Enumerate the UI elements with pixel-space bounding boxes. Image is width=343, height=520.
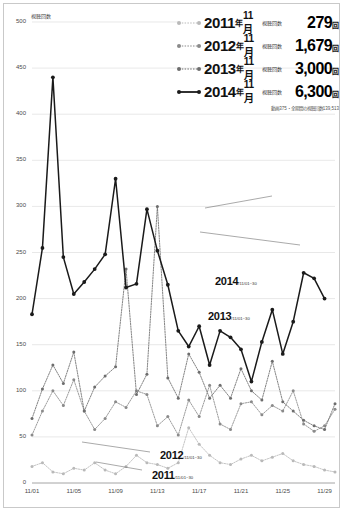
legend-line-sample-icon (176, 17, 202, 29)
series-2014 (30, 75, 326, 383)
x-axis-tick: 11/29 (308, 488, 342, 494)
chart-legend: 2011年11月視聴回数279回2012年11月視聴回数1,679回2013年1… (176, 11, 339, 103)
y-axis-title: 視聴回数 (31, 12, 51, 19)
annotation-range: /11/01~30 (175, 475, 193, 480)
annotation-year: 2011 (152, 469, 175, 481)
annotation-range: /11/01~30 (238, 281, 256, 286)
series-2013 (31, 205, 337, 431)
annotation-leader-lines (82, 196, 300, 470)
legend-unit: 回 (332, 43, 339, 53)
legend-row-2014: 2014年11月視聴回数6,300回 (176, 80, 339, 103)
legend-year: 2011 (204, 15, 235, 30)
annotation-range: /11/01~30 (231, 316, 249, 321)
x-axis-tick: 11/13 (140, 488, 174, 494)
y-axis-tick: 0 (4, 479, 26, 485)
x-axis-tick: 11/05 (57, 488, 91, 494)
legend-year-suffix: 年 (236, 86, 244, 97)
series-annotation-2011: 2011/11/01~30 (152, 466, 193, 482)
legend-value-wrap: 3,000回 (283, 61, 339, 77)
series-annotation-2013: 2013/11/01~30 (208, 307, 250, 323)
series-2012 (31, 378, 337, 436)
y-axis-tick: 100 (4, 387, 26, 393)
legend-unit: 回 (332, 89, 339, 99)
legend-month: 11月 (244, 79, 262, 105)
legend-footnote: 動画375・全期間の視聴回数139,513 (176, 105, 339, 111)
legend-line-sample-icon (176, 86, 202, 98)
legend-unit: 回 (332, 20, 339, 30)
annotation-year: 2013 (208, 310, 231, 322)
legend-year-suffix: 年 (236, 63, 244, 74)
x-axis-tick: 11/09 (99, 488, 133, 494)
legend-row-2013: 2013年11月視聴回数3,000回 (176, 57, 339, 80)
chart-page: 視聴回数 050100150200250300350400450500 11/0… (0, 0, 343, 520)
legend-unit: 回 (332, 66, 339, 76)
x-axis-tick: 11/17 (182, 488, 216, 494)
legend-year: 2014 (204, 84, 236, 99)
legend-row-2012: 2012年11月視聴回数1,679回 (176, 34, 339, 57)
x-axis-tick: 11/25 (266, 488, 300, 494)
y-axis-tick: 350 (4, 156, 26, 162)
y-axis-tick: 300 (4, 202, 26, 208)
legend-metric-label: 視聴回数 (262, 42, 283, 49)
legend-year-suffix: 年 (235, 17, 243, 28)
legend-year: 2012 (204, 38, 236, 53)
legend-year: 2013 (204, 61, 236, 76)
y-axis-tick: 150 (4, 341, 26, 347)
y-axis-tick: 250 (4, 249, 26, 255)
legend-metric-label: 視聴回数 (262, 19, 283, 26)
annotation-range: /11/01~30 (183, 455, 201, 460)
y-axis-tick: 450 (4, 64, 26, 70)
y-axis-tick: 500 (4, 18, 26, 24)
legend-value: 1,679 (295, 38, 332, 54)
x-axis-tick: 11/01 (15, 488, 49, 494)
legend-value-wrap: 1,679回 (283, 38, 339, 54)
annotation-year: 2012 (160, 449, 183, 461)
y-axis-tick: 200 (4, 295, 26, 301)
legend-metric-label: 視聴回数 (262, 65, 283, 72)
y-axis-tick: 400 (4, 110, 26, 116)
series-annotation-2014: 2014/11/01~30 (215, 272, 257, 288)
legend-year-suffix: 年 (236, 40, 244, 51)
series-annotation-2012: 2012/11/01~30 (160, 446, 202, 462)
annotation-year: 2014 (215, 275, 238, 287)
legend-value-wrap: 6,300回 (283, 84, 339, 100)
legend-metric-label: 視聴回数 (262, 88, 283, 95)
legend-value: 279 (307, 15, 332, 31)
legend-value: 6,300 (295, 84, 332, 100)
legend-row-2011: 2011年11月視聴回数279回 (176, 11, 339, 34)
x-axis-tick: 11/21 (224, 488, 258, 494)
legend-value: 3,000 (295, 61, 332, 77)
legend-line-sample-icon (176, 40, 202, 52)
legend-line-sample-icon (176, 63, 202, 75)
y-axis-tick: 50 (4, 433, 26, 439)
legend-value-wrap: 279回 (283, 15, 339, 31)
